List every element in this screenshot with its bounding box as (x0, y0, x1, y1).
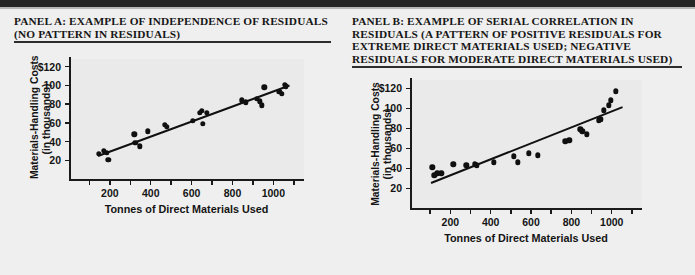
x-axis-tick-label: 400 (482, 216, 500, 228)
x-axis-tick (470, 209, 472, 214)
y-axis-tick (406, 128, 411, 130)
x-axis-tick (150, 180, 152, 185)
x-axis-title: Tonnes of Direct Materials Used (444, 232, 608, 244)
panel-a-chart: 20406080100$1202004006008001000Materials… (14, 53, 334, 249)
y-axis-title-line2: (in thousands) (41, 59, 53, 179)
x-axis-tick (109, 180, 111, 185)
top-divider-rule (0, 0, 695, 7)
y-axis-tick (65, 66, 70, 68)
panel-a: PANEL A: EXAMPLE OF INDEPENDENCE OF RESI… (14, 9, 344, 275)
panel-b-title-rule (352, 66, 682, 68)
x-axis-tick (450, 209, 452, 214)
x-axis-tick (191, 180, 193, 185)
x-axis-tick (273, 180, 275, 185)
y-axis-tick (406, 148, 411, 150)
x-axis-tick-label: 200 (442, 216, 460, 228)
y-axis-tick (65, 141, 70, 143)
x-axis-tick (252, 180, 254, 185)
panel-a-title: PANEL A: EXAMPLE OF INDEPENDENCE OF RESI… (14, 9, 344, 40)
y-axis-tick (65, 160, 70, 162)
panel-a-title-rule (14, 41, 331, 43)
y-axis-tick (65, 85, 70, 87)
y-axis-tick (65, 122, 70, 124)
x-axis-tick (530, 209, 532, 214)
x-axis-tick-label: 200 (101, 187, 119, 199)
x-axis-line (69, 179, 304, 181)
x-axis-tick (490, 209, 492, 214)
panel-b: PANEL B: EXAMPLE OF SERIAL CORRELATION I… (352, 9, 692, 275)
x-axis-tick-label: 1000 (600, 216, 623, 228)
x-axis-tick-label: 1000 (262, 187, 285, 199)
x-axis-tick-label: 800 (563, 216, 581, 228)
x-axis-tick (550, 209, 552, 214)
y-axis-tick (406, 188, 411, 190)
x-axis-tick (510, 209, 512, 214)
x-axis-tick-label: 800 (224, 187, 242, 199)
y-axis-title: Materials-Handling Costs(in thousands) (370, 80, 394, 208)
y-axis-title-line1: Materials-Handling Costs (370, 80, 382, 208)
panel-b-chart: 20406080100$1202004006008001000Materials… (352, 76, 682, 258)
x-axis-title: Tonnes of Direct Materials Used (105, 203, 269, 215)
x-axis-tick (571, 209, 573, 214)
x-axis-line (410, 208, 642, 210)
panel-b-title: PANEL B: EXAMPLE OF SERIAL CORRELATION I… (352, 9, 692, 65)
panel-a-plot-background (69, 59, 304, 179)
figure-root: PANEL A: EXAMPLE OF INDEPENDENCE OF RESI… (0, 0, 695, 275)
y-axis-title-line1: Materials-Handling Costs (29, 59, 41, 179)
x-axis-tick-label: 600 (522, 216, 540, 228)
x-axis-tick (211, 180, 213, 185)
x-axis-tick (429, 209, 431, 214)
y-axis-tick (406, 108, 411, 110)
x-axis-tick (170, 180, 172, 185)
x-axis-tick-label: 600 (183, 187, 201, 199)
x-axis-tick (611, 209, 613, 214)
x-axis-tick (591, 209, 593, 214)
x-axis-tick (232, 180, 234, 185)
x-axis-tick (293, 180, 295, 185)
y-axis-tick (406, 88, 411, 90)
y-axis-tick (65, 103, 70, 105)
x-axis-tick (130, 180, 132, 185)
y-axis-title-line2: (in thousands) (382, 80, 394, 208)
y-axis-tick (406, 168, 411, 170)
x-axis-tick (631, 209, 633, 214)
y-axis-title: Materials-Handling Costs(in thousands) (29, 59, 53, 179)
x-axis-tick-label: 400 (142, 187, 160, 199)
x-axis-tick (89, 180, 91, 185)
